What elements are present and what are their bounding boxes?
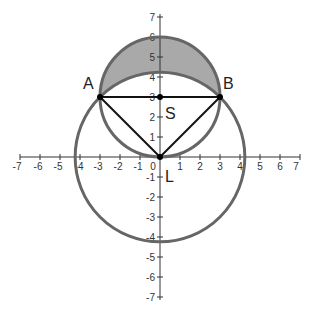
x-tick-labels: -7 -6 -5 -4 -3 -2 -1 0 1 2 3 4 5 6 7 [13,161,300,172]
svg-text:5: 5 [149,52,155,63]
label-S: S [165,105,176,122]
svg-text:2: 2 [197,161,203,172]
svg-text:7: 7 [293,161,299,172]
svg-text:-2: -2 [146,192,155,203]
svg-text:-6: -6 [146,272,155,283]
svg-text:6: 6 [277,161,283,172]
svg-text:-1: -1 [146,172,155,183]
svg-text:-2: -2 [114,161,123,172]
point-S [157,94,163,100]
svg-text:7: 7 [149,12,155,23]
svg-text:3: 3 [217,161,223,172]
label-B: B [223,75,234,92]
svg-text:5: 5 [257,161,263,172]
svg-text:1: 1 [149,132,155,143]
svg-text:-6: -6 [34,161,43,172]
point-B [217,94,223,100]
label-L: L [165,168,174,185]
svg-text:-3: -3 [146,212,155,223]
svg-text:0: 0 [150,161,156,172]
svg-text:-3: -3 [94,161,103,172]
svg-text:-7: -7 [13,161,22,172]
svg-text:-5: -5 [146,252,155,263]
label-A: A [83,75,94,92]
svg-text:2: 2 [149,112,155,123]
svg-text:1: 1 [177,161,183,172]
svg-text:-7: -7 [146,292,155,303]
svg-text:-1: -1 [134,161,143,172]
diagram-canvas: -7 -6 -5 -4 -3 -2 -1 0 1 2 3 4 5 6 7 7 6… [0,0,311,315]
point-A [97,94,103,100]
point-L [157,154,163,160]
svg-text:-5: -5 [54,161,63,172]
